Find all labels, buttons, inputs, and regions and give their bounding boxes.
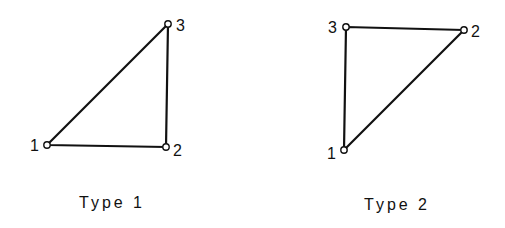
node-1 <box>44 142 50 148</box>
node-3 <box>165 21 171 27</box>
node-label-2: 2 <box>173 142 182 159</box>
triangle-edges <box>344 27 464 150</box>
node-1 <box>341 147 347 153</box>
triangle-edges <box>47 24 168 147</box>
node-label-2: 2 <box>471 23 480 40</box>
node-3 <box>343 24 349 30</box>
node-label-1: 1 <box>327 145 336 162</box>
node-label-1: 1 <box>30 137 39 154</box>
node-2 <box>461 27 467 33</box>
caption-type-1: Type 1 <box>79 194 145 211</box>
caption-type-2: Type 2 <box>364 196 430 213</box>
node-label-3: 3 <box>176 17 185 34</box>
triangle-type-1: 1 2 3 Type 1 <box>30 17 185 211</box>
node-label-3: 3 <box>328 19 337 36</box>
triangle-type-2: 1 2 3 Type 2 <box>327 19 480 213</box>
node-2 <box>163 144 169 150</box>
triangle-diagrams: 1 2 3 Type 1 1 2 3 Type 2 <box>0 0 505 228</box>
